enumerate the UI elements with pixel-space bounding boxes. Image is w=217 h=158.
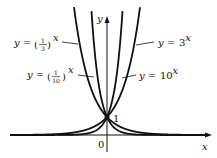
svg-text:): ): [62, 71, 66, 82]
svg-text:y =: y =: [138, 70, 156, 81]
svg-text:y =: y =: [13, 37, 31, 48]
svg-text:x: x: [68, 64, 74, 75]
x-axis-label: x: [202, 141, 208, 152]
svg-text:(: (: [34, 39, 38, 50]
svg-text:10: 10: [160, 70, 173, 81]
annotation-three-pow-x: y =3x: [136, 32, 191, 48]
svg-text:(: (: [47, 71, 51, 82]
annotation-one-third-pow-x: y =(13)x: [13, 32, 78, 52]
svg-text:x: x: [53, 32, 59, 43]
annotation-ten-pow-x: y =10x: [122, 65, 178, 81]
annotation-leader: [136, 42, 154, 45]
svg-text:3: 3: [41, 45, 45, 52]
x-axis-arrow-icon: [205, 133, 212, 138]
svg-text:10: 10: [52, 77, 60, 84]
svg-text:x: x: [185, 32, 191, 43]
svg-text:y =: y =: [157, 37, 175, 48]
svg-text:1: 1: [41, 37, 45, 44]
y-axis-label: y: [96, 13, 103, 24]
annotation-leader: [122, 75, 136, 78]
annotation-leader: [62, 42, 78, 44]
y-intercept-label: 1: [113, 113, 119, 124]
svg-text:y =: y =: [26, 69, 44, 80]
common-point: [105, 115, 110, 120]
svg-text:1: 1: [54, 69, 58, 76]
svg-text:x: x: [172, 65, 178, 76]
svg-text:): ): [47, 39, 51, 50]
origin-tick-label: 0: [98, 139, 104, 150]
exponential-functions-chart: yx01y =(13)xy =(110)xy =3xy =10x: [0, 0, 217, 158]
y-axis-arrow-icon: [105, 16, 110, 23]
